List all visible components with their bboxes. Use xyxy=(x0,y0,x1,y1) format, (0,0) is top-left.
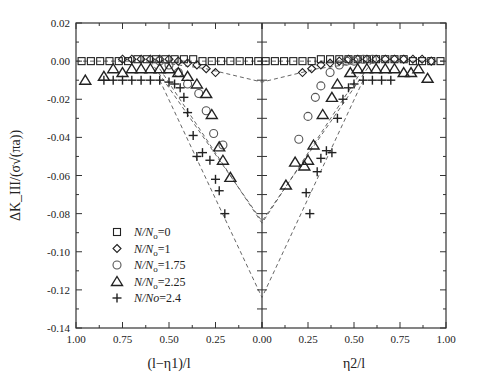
diamond-marker xyxy=(400,55,408,63)
x-axis-title-right: η2/l xyxy=(343,356,365,371)
plus-marker xyxy=(215,186,224,195)
plus-marker xyxy=(316,154,325,163)
triangle-marker xyxy=(308,140,319,149)
legend-label: N/No=1.75 xyxy=(133,258,186,274)
y-tick-label: -0.10 xyxy=(47,246,70,258)
circle-marker xyxy=(311,93,319,101)
x-tick-label: 0.00 xyxy=(252,333,272,345)
x-tick-label: 0.75 xyxy=(390,333,410,345)
triangle-marker xyxy=(290,157,301,166)
diamond-marker xyxy=(390,55,398,63)
triangle-marker xyxy=(332,79,343,88)
y-tick-label: -0.02 xyxy=(47,93,70,105)
diamond-marker xyxy=(381,55,389,63)
plus-marker xyxy=(211,175,220,184)
diamond-marker xyxy=(409,55,417,63)
circle-marker xyxy=(295,135,303,143)
triangle-marker xyxy=(317,110,328,119)
plus-marker xyxy=(327,148,336,157)
plus-marker xyxy=(137,76,146,85)
circle-marker xyxy=(304,112,312,120)
x-tick-label: 0.25 xyxy=(206,333,226,345)
plus-marker xyxy=(305,209,314,218)
legend-label: N/No=1 xyxy=(133,242,171,258)
legend: N/No=0N/No=1N/No=1.75N/No=2.25N/No=2.4 xyxy=(108,225,218,322)
y-tick-label: -0.08 xyxy=(47,208,70,220)
data-markers xyxy=(78,55,444,218)
legend-label: N/No=0 xyxy=(133,225,171,241)
y-tick-label: -0.12 xyxy=(47,284,70,296)
diamond-marker xyxy=(344,55,352,63)
chart: 0.020.00-0.02-0.04-0.06-0.08-0.10-0.12-0… xyxy=(0,0,480,390)
plus-marker xyxy=(368,76,377,85)
plus-marker xyxy=(359,76,368,85)
square-marker xyxy=(391,56,398,63)
circle-marker xyxy=(184,80,192,88)
y-tick-label: -0.04 xyxy=(47,131,70,143)
plus-marker xyxy=(386,76,395,85)
plus-marker xyxy=(333,114,342,123)
y-axis-title: ΔK_III/(σ√(πa)) xyxy=(8,130,24,221)
plus-marker xyxy=(322,146,331,155)
triangle-marker xyxy=(225,172,236,181)
y-tick-label: 0.02 xyxy=(51,17,70,29)
plus-marker xyxy=(220,209,229,218)
diamond-marker xyxy=(418,55,426,63)
square-marker xyxy=(400,56,407,63)
diamond-marker xyxy=(308,65,316,73)
y-tick-label: -0.06 xyxy=(47,170,70,182)
x-axis-title-left: (l−η1)/l xyxy=(147,356,190,372)
x-tick-label: 0.75 xyxy=(113,333,133,345)
plus-marker xyxy=(165,78,174,87)
triangle-marker xyxy=(326,92,337,101)
circle-marker xyxy=(317,82,325,90)
x-tick-label: 0.50 xyxy=(344,333,364,345)
plus-marker xyxy=(205,156,214,165)
circle-marker xyxy=(210,130,218,138)
plus-marker xyxy=(189,131,198,140)
circle-marker xyxy=(326,69,334,77)
diamond-marker xyxy=(212,69,220,77)
legend-label: N/No=2.25 xyxy=(133,275,186,291)
plus-marker xyxy=(377,76,386,85)
plus-marker xyxy=(338,95,347,104)
triangle-marker xyxy=(80,75,91,84)
triangle-marker xyxy=(422,73,433,82)
x-tick-label: 0.50 xyxy=(159,333,179,345)
plus-marker xyxy=(313,167,322,176)
legend-label: N/No=2.4 xyxy=(133,291,181,305)
x-tick-label: 1.00 xyxy=(66,333,86,345)
x-tick-label: 0.25 xyxy=(298,333,318,345)
x-tick-label: 1.00 xyxy=(436,333,456,345)
y-tick-label: 0.00 xyxy=(51,55,71,67)
triangle-marker xyxy=(280,180,291,189)
plus-marker xyxy=(146,76,155,85)
plus-marker xyxy=(155,76,164,85)
square-marker xyxy=(382,56,389,63)
